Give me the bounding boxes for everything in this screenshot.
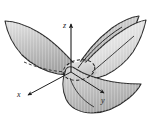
figure-container: z x y	[0, 0, 148, 118]
saddle-surface-diagram: z x y	[0, 0, 148, 118]
x-axis-label: x	[16, 90, 21, 99]
z-axis-label: z	[62, 21, 67, 30]
y-axis-label: y	[100, 96, 105, 105]
